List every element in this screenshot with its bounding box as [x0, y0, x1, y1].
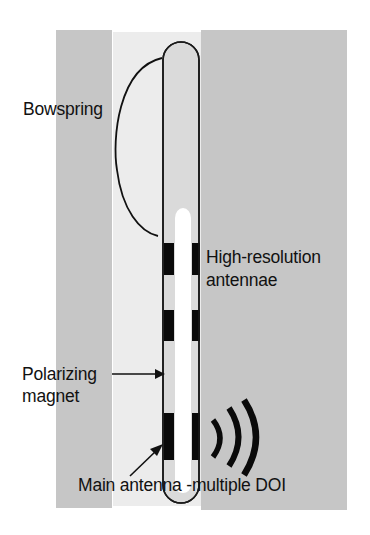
polarizing-magnet-label-line1: Polarizing [22, 364, 97, 385]
main-antenna-arrow-icon [130, 444, 163, 476]
signal-waves-icon [213, 400, 256, 475]
high-resolution-antennae-label-line1: High-resolution [206, 247, 321, 268]
high-res-antenna-1-left [164, 243, 174, 275]
main-antenna-label: Main antenna -multiple DOI [78, 475, 286, 496]
main-antenna-left [164, 413, 174, 460]
high-resolution-antennae-label-line2: antennae [206, 270, 277, 291]
high-res-antenna-2-left [164, 310, 174, 341]
inner-channel [175, 208, 191, 493]
bowspring-curve [116, 58, 162, 236]
polarizing-magnet-arrow-icon [112, 369, 165, 379]
diagram-canvas: Bowspring High-resolution antennae Polar… [0, 0, 370, 535]
polarizing-magnet-label-line2: magnet [22, 386, 79, 407]
bowspring-label: Bowspring [23, 99, 103, 120]
